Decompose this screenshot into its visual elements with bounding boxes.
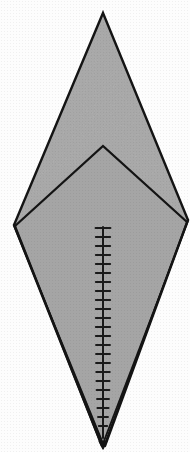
figure-drawing [0,0,190,452]
figure-plate [0,0,190,452]
